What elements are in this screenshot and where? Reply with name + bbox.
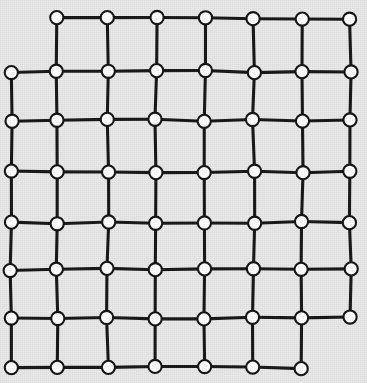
lattice-node [5, 361, 18, 374]
lattice-node [198, 115, 211, 128]
lattice-edge [107, 18, 108, 72]
lattice-node [345, 262, 358, 275]
lattice-node [149, 166, 162, 179]
lattice-node [344, 65, 357, 78]
lattice-graph-canvas [0, 0, 367, 383]
lattice-node [101, 113, 114, 126]
lattice-node [5, 66, 18, 79]
lattice-edge [350, 19, 351, 72]
lattice-node [296, 114, 309, 127]
lattice-node [150, 64, 163, 77]
lattice-node [199, 11, 212, 24]
lattice-node [51, 361, 64, 374]
lattice-node [246, 12, 259, 25]
lattice-node [246, 311, 259, 324]
lattice-node [343, 216, 356, 229]
lattice-node [296, 166, 309, 179]
lattice-node [295, 65, 308, 78]
lattice-node [101, 11, 114, 24]
lattice-node [148, 113, 161, 126]
lattice-node [51, 217, 64, 230]
lattice-node [100, 262, 113, 275]
lattice-node [51, 165, 64, 178]
lattice-node [343, 165, 356, 178]
lattice-node [197, 312, 210, 325]
lattice-node [5, 115, 18, 128]
lattice-node [50, 263, 63, 276]
lattice-node [247, 262, 260, 275]
lattice-node [102, 65, 115, 78]
lattice-node [248, 66, 261, 79]
lattice-node [100, 311, 113, 324]
lattice-edge [155, 119, 156, 172]
lattice-node [246, 360, 259, 373]
lattice-node [50, 114, 63, 127]
lattice-node [343, 113, 356, 126]
lattice-node [343, 310, 356, 323]
lattice-edge [302, 121, 303, 173]
lattice-node [246, 113, 259, 126]
lattice-node [5, 164, 18, 177]
lattice-node [295, 362, 308, 375]
lattice-node [150, 11, 163, 24]
lattice-node [149, 217, 162, 230]
lattice-edge [253, 120, 255, 172]
lattice-edge [57, 222, 109, 224]
lattice-node [295, 215, 308, 228]
lattice-node [102, 165, 115, 178]
lattice-node [50, 11, 63, 24]
lattice-node [199, 64, 212, 77]
lattice-node [198, 216, 211, 229]
lattice-node [149, 263, 162, 276]
lattice-node [295, 263, 308, 276]
lattice-node [51, 312, 64, 325]
lattice-edge [253, 19, 254, 73]
lattice-edge [107, 119, 108, 172]
lattice-node [296, 12, 309, 25]
lattice-node [248, 217, 261, 230]
lattice-node [5, 311, 18, 324]
lattice-node [102, 361, 115, 374]
lattice-node [4, 264, 17, 277]
lattice-node [198, 166, 211, 179]
lattice-figure [0, 0, 367, 383]
lattice-node [148, 360, 161, 373]
lattice-node [198, 360, 211, 373]
lattice-node [149, 312, 162, 325]
lattice-node [5, 215, 18, 228]
lattice-node [198, 262, 211, 275]
lattice-node [248, 165, 261, 178]
lattice-edge [56, 18, 57, 72]
lattice-node [343, 13, 356, 26]
lattice-node [50, 65, 63, 78]
lattice-node [295, 311, 308, 324]
lattice-node [102, 215, 115, 228]
